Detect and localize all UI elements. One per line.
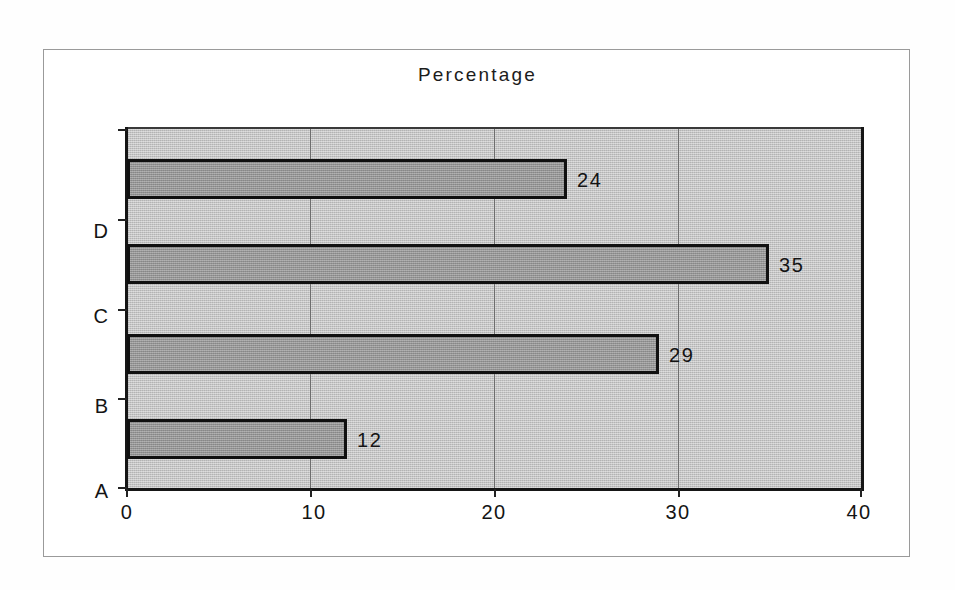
gridline-30 bbox=[678, 129, 679, 488]
x-axis-tick-label-10: 10 bbox=[301, 502, 326, 522]
bar-grain-D bbox=[130, 162, 564, 196]
y-axis-label-D: D bbox=[74, 221, 108, 241]
y-tick-mark-B-A bbox=[118, 398, 127, 400]
bar-C[interactable] bbox=[127, 244, 769, 284]
plot-area: 24 35 29 12 bbox=[127, 129, 861, 488]
bar-D[interactable] bbox=[127, 159, 567, 199]
bar-grain-C bbox=[130, 247, 766, 281]
bar-value-label-B: 29 bbox=[669, 345, 694, 365]
x-tick-mark-10 bbox=[310, 489, 312, 497]
plot-top-border bbox=[125, 127, 864, 129]
x-tick-mark-30 bbox=[678, 489, 680, 497]
bar-A[interactable] bbox=[127, 419, 347, 459]
y-tick-mark-top bbox=[118, 129, 127, 131]
chart-outer-frame: Percentage D C B A 0 10 20 30 40 bbox=[43, 49, 910, 557]
plot-right-border bbox=[861, 127, 864, 490]
x-tick-mark-40 bbox=[860, 489, 862, 497]
y-axis-label-A: A bbox=[74, 481, 108, 501]
chart-title: Percentage bbox=[44, 64, 911, 86]
bar-value-label-C: 35 bbox=[779, 255, 804, 275]
bar-grain-B bbox=[130, 337, 656, 371]
bar-value-label-A: 12 bbox=[357, 430, 382, 450]
x-axis-tick-label-0: 0 bbox=[121, 502, 134, 522]
x-tick-mark-20 bbox=[494, 489, 496, 497]
x-axis-tick-label-40: 40 bbox=[846, 502, 871, 522]
y-tick-mark-bottom bbox=[118, 487, 127, 489]
x-tick-mark-0 bbox=[126, 489, 128, 497]
y-tick-mark-D-C bbox=[118, 219, 127, 221]
y-axis-label-B: B bbox=[74, 396, 108, 416]
bar-grain-A bbox=[130, 422, 344, 456]
x-axis-tick-label-20: 20 bbox=[481, 502, 506, 522]
bar-B[interactable] bbox=[127, 334, 659, 374]
x-axis-tick-label-30: 30 bbox=[665, 502, 690, 522]
y-axis-label-C: C bbox=[74, 306, 108, 326]
chart-root: Percentage D C B A 0 10 20 30 40 bbox=[0, 0, 955, 590]
bar-value-label-D: 24 bbox=[577, 170, 602, 190]
y-tick-mark-C-B bbox=[118, 309, 127, 311]
